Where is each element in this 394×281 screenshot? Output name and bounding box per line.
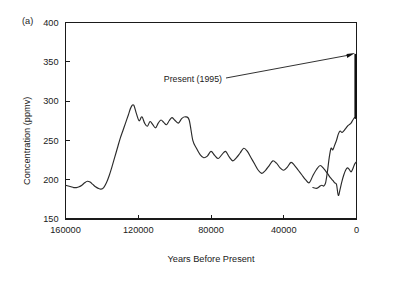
x-tick-label: 0 [354, 225, 359, 235]
y-tick-label: 300 [43, 96, 58, 106]
annotation-leader-line [226, 55, 349, 78]
y-axis-title: Concentration (ppmv) [22, 97, 32, 185]
y-tick-label: 250 [43, 136, 58, 146]
x-tick-label: 160000 [50, 225, 81, 235]
x-axis: 16000012000080000400000 Years Before Pre… [50, 215, 359, 265]
co2-curve-holocene [313, 118, 357, 189]
co2-concentration-chart: (a) 150200250300350400 Concentration (pp… [0, 0, 394, 281]
present-annotation: Present (1995) [164, 53, 355, 84]
y-tick-label: 200 [43, 175, 58, 185]
data-series-group [66, 105, 357, 196]
panel-label: (a) [22, 16, 33, 26]
x-tick-label: 120000 [123, 225, 154, 235]
annotation-label: Present (1995) [164, 74, 222, 84]
y-tick-label: 400 [43, 18, 58, 28]
y-tick-label: 350 [43, 57, 58, 67]
x-axis-title: Years Before Present [168, 254, 255, 264]
y-tick-label: 150 [43, 214, 58, 224]
plot-frame [66, 23, 357, 220]
co2-curve [66, 105, 357, 196]
x-tick-label: 80000 [198, 225, 224, 235]
annotation-arrow-icon [347, 53, 356, 58]
y-axis: 150200250300350400 Concentration (ppmv) [22, 18, 70, 225]
x-tick-label: 40000 [271, 225, 297, 235]
